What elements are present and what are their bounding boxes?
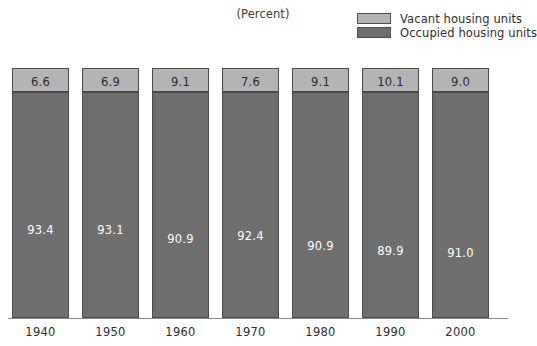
bar-segment-vacant-1970: 7.6 bbox=[222, 68, 279, 92]
x-tick-label-1980: 1980 bbox=[292, 325, 349, 339]
bar-value-occupied-1960: 90.9 bbox=[153, 232, 208, 246]
bar-segment-occupied-1970: 92.4 bbox=[222, 92, 279, 318]
bar-value-occupied-1980: 90.9 bbox=[293, 239, 348, 253]
bar-value-occupied-1940: 93.4 bbox=[13, 223, 68, 237]
bar-segment-vacant-1940: 6.6 bbox=[12, 68, 69, 92]
bar-segment-vacant-1950: 6.9 bbox=[82, 68, 139, 92]
bar-segment-occupied-1990: 89.9 bbox=[362, 92, 419, 318]
bar-1950: 6.993.1 bbox=[82, 68, 139, 318]
bar-value-occupied-1970: 92.4 bbox=[223, 229, 278, 243]
bar-segment-occupied-1960: 90.9 bbox=[152, 92, 209, 318]
x-tick-label-2000: 2000 bbox=[432, 325, 489, 339]
x-tick-label-1990: 1990 bbox=[362, 325, 419, 339]
bar-value-vacant-1940: 6.6 bbox=[13, 75, 68, 89]
bar-1990: 10.189.9 bbox=[362, 68, 419, 318]
bar-1940: 6.693.4 bbox=[12, 68, 69, 318]
bar-segment-occupied-1980: 90.9 bbox=[292, 92, 349, 318]
bar-value-vacant-1950: 6.9 bbox=[83, 75, 138, 89]
bar-value-occupied-1950: 93.1 bbox=[83, 223, 138, 237]
bar-segment-occupied-2000: 91.0 bbox=[432, 92, 489, 318]
bar-value-occupied-2000: 91.0 bbox=[433, 246, 488, 260]
bar-2000: 9.091.0 bbox=[432, 68, 489, 318]
x-axis-baseline bbox=[8, 318, 508, 319]
bar-value-vacant-1960: 9.1 bbox=[153, 75, 208, 89]
x-tick-label-1950: 1950 bbox=[82, 325, 139, 339]
bar-value-occupied-1990: 89.9 bbox=[363, 244, 418, 258]
bar-value-vacant-1980: 9.1 bbox=[293, 75, 348, 89]
bar-value-vacant-1970: 7.6 bbox=[223, 75, 278, 89]
bar-segment-vacant-1990: 10.1 bbox=[362, 68, 419, 92]
bar-1970: 7.692.4 bbox=[222, 68, 279, 318]
bar-segment-vacant-1980: 9.1 bbox=[292, 68, 349, 92]
bar-segment-occupied-1950: 93.1 bbox=[82, 92, 139, 318]
bar-1980: 9.190.9 bbox=[292, 68, 349, 318]
bar-1960: 9.190.9 bbox=[152, 68, 209, 318]
bar-value-vacant-2000: 9.0 bbox=[433, 75, 488, 89]
x-tick-label-1960: 1960 bbox=[152, 325, 209, 339]
bar-segment-occupied-1940: 93.4 bbox=[12, 92, 69, 318]
x-tick-label-1970: 1970 bbox=[222, 325, 279, 339]
x-tick-label-1940: 1940 bbox=[12, 325, 69, 339]
bar-segment-vacant-2000: 9.0 bbox=[432, 68, 489, 92]
bar-value-vacant-1990: 10.1 bbox=[363, 75, 418, 89]
bar-segment-vacant-1960: 9.1 bbox=[152, 68, 209, 92]
